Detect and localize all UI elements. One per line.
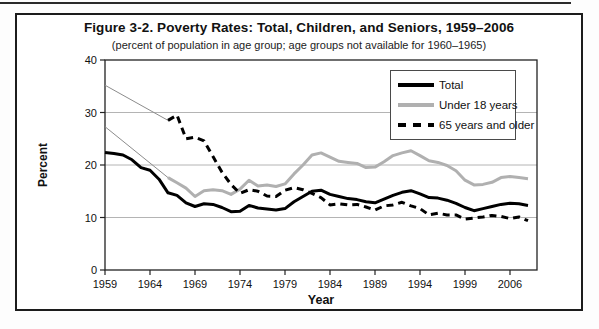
legend-label-65-older: 65 years and older — [439, 119, 534, 131]
gap-connector — [105, 85, 168, 120]
x-tick-label: 1999 — [453, 278, 477, 290]
x-tick-label: 1969 — [183, 278, 207, 290]
x-tick-label: 1959 — [93, 278, 117, 290]
x-axis-title: Year — [308, 293, 335, 307]
legend-label-total: Total — [439, 79, 463, 91]
x-tick-label: 1974 — [228, 278, 252, 290]
legend-item-total: Total — [398, 79, 515, 91]
x-tick-label: 1964 — [138, 278, 162, 290]
y-tick-label: 0 — [91, 264, 97, 276]
legend-item-under-18: Under 18 years — [398, 99, 515, 111]
legend-item-65-older: 65 years and older — [398, 119, 515, 131]
legend-line-sample-65-older — [398, 123, 434, 127]
x-tick-label: 1989 — [363, 278, 387, 290]
x-tick-label: 1994 — [408, 278, 432, 290]
y-tick-label: 20 — [85, 159, 97, 171]
x-tick-label: 2006 — [498, 278, 522, 290]
legend-label-under-18: Under 18 years — [439, 99, 518, 111]
figure-box: Figure 3-2. Poverty Rates: Total, Childr… — [15, 13, 583, 311]
page-edge-rule — [0, 2, 571, 4]
x-tick-label: 1984 — [318, 278, 342, 290]
y-axis-title: Percent — [36, 143, 50, 187]
x-tick-label: 1979 — [273, 278, 297, 290]
legend: Total Under 18 years 65 years and older — [390, 70, 516, 140]
legend-line-sample-under-18 — [398, 103, 434, 107]
poverty-line-chart: 1959196419691974197919841989199419992006… — [17, 15, 581, 309]
legend-line-sample-total — [398, 83, 434, 87]
y-tick-label: 30 — [85, 107, 97, 119]
y-tick-label: 40 — [85, 54, 97, 66]
series-line-under-18-years — [168, 151, 528, 197]
series-line-total — [105, 152, 528, 211]
y-tick-label: 10 — [85, 212, 97, 224]
